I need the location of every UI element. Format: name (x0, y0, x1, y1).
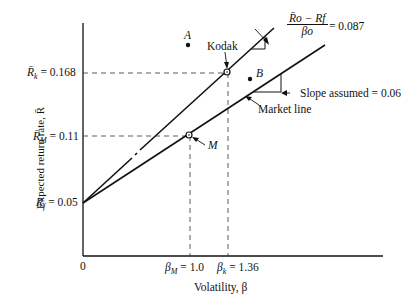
rf-symbol: R (36, 196, 43, 208)
x-axis-label: Volatility, β (194, 282, 247, 294)
fraction-numerator: R̄o − Rf (287, 12, 328, 25)
betam-value: = 1.0 (180, 261, 204, 273)
label-a: A (184, 30, 191, 42)
ytick-rk: R̄k = 0.168 (27, 67, 76, 81)
betam-sub: M (171, 267, 178, 276)
ytick-rm: R̄M = 0.11 (33, 131, 79, 145)
market-line-label: Market line (258, 104, 311, 116)
rm-value: = 0.11 (50, 130, 79, 142)
ytick-rf: Rf = 0.05 (36, 197, 78, 211)
kodak-line-dot (135, 153, 137, 155)
xtick-betak: βk = 1.36 (217, 262, 259, 276)
rk-sub: k (34, 72, 38, 81)
point-b (248, 77, 252, 81)
rm-symbol: R̄ (33, 130, 40, 142)
label-b: B (256, 68, 263, 80)
rk-symbol: R̄ (27, 66, 34, 78)
point-a (186, 43, 190, 47)
label-kodak: Kodak (207, 41, 238, 53)
capm-diagram (0, 0, 407, 303)
label-m: M (208, 140, 218, 152)
market-slope-arrowhead (281, 90, 287, 96)
fraction-denominator: βo (287, 25, 328, 37)
rf-sub: f (43, 202, 45, 211)
y-axis-label: Expected return rate, R̄ (34, 78, 46, 238)
m-arrowhead (192, 137, 199, 142)
market-slope-label: Slope assumed = 0.06 (300, 88, 401, 100)
upper-slope-value: = 0.087 (329, 21, 364, 33)
kodak-line-lower (83, 158, 132, 203)
betak-sub: k (223, 267, 227, 276)
xtick-betam: βM = 1.0 (165, 262, 204, 276)
point-kodak-center (226, 71, 228, 73)
betak-value: = 1.36 (229, 261, 259, 273)
upper-slope-fraction: R̄o − Rf βo (287, 12, 328, 37)
point-m-center (188, 134, 190, 136)
origin-label: 0 (80, 261, 86, 273)
rm-sub: M (40, 136, 47, 145)
rf-value: = 0.05 (48, 196, 78, 208)
kodak-arrowhead (224, 62, 229, 69)
rk-value: = 0.168 (40, 66, 75, 78)
market-line-arrowhead (245, 96, 252, 101)
market-line (83, 45, 325, 203)
